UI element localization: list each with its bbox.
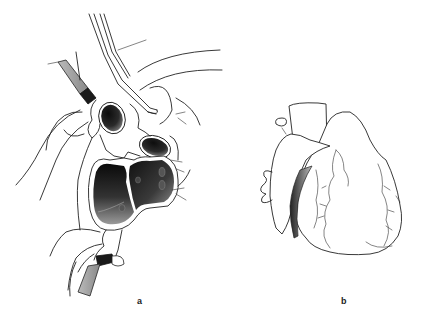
left-vessels bbox=[16, 110, 92, 230]
panel-label-a: a bbox=[137, 296, 142, 306]
small-vessel-stump bbox=[276, 118, 287, 126]
chamber-detail bbox=[159, 181, 165, 190]
chamber-detail bbox=[159, 168, 165, 177]
cannula bbox=[89, 14, 158, 114]
panel-b-drawing bbox=[261, 103, 402, 255]
chamber-detail bbox=[136, 177, 141, 183]
figure-drawing bbox=[0, 0, 433, 323]
anatomical-figure: a b bbox=[0, 0, 433, 323]
upper-left-vessel-clamped bbox=[48, 52, 96, 104]
lower-vessel-clamped bbox=[50, 229, 124, 296]
chamber-detail bbox=[119, 205, 125, 212]
aortic-arch bbox=[138, 50, 222, 125]
panel-a-drawing bbox=[16, 14, 222, 296]
panel-label-b: b bbox=[341, 296, 347, 306]
